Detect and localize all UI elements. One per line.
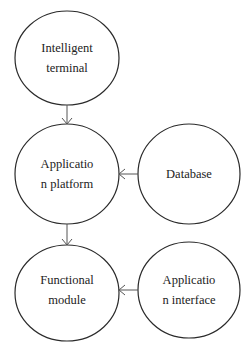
- label-line: Database: [144, 164, 234, 184]
- node-application-interface-label: Applicatio n interface: [144, 270, 234, 310]
- node-database-label: Database: [144, 164, 234, 184]
- label-line: n interface: [144, 290, 234, 310]
- label-line: Applicatio: [144, 270, 234, 290]
- label-line: Functional: [22, 270, 112, 290]
- label-line: module: [22, 290, 112, 310]
- node-functional-module-label: Functional module: [22, 270, 112, 310]
- label-line: terminal: [22, 58, 112, 78]
- label-line: Applicatio: [22, 154, 112, 174]
- node-application-platform-label: Applicatio n platform: [22, 154, 112, 194]
- label-line: n platform: [22, 174, 112, 194]
- node-intelligent-terminal-label: Intelligent terminal: [22, 38, 112, 78]
- label-line: Intelligent: [22, 38, 112, 58]
